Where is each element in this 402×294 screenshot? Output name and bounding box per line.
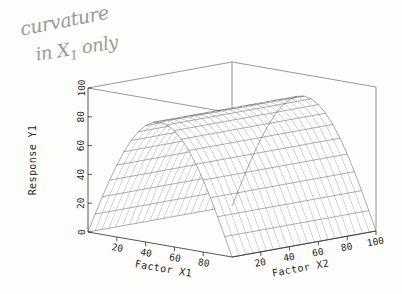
x1-axis-tick-label: 20 <box>111 241 124 254</box>
surface-plot-figure: 020406080100Response Y120406080Factor X1… <box>0 0 402 294</box>
y-axis-tick-label: 40 <box>76 168 87 180</box>
response-surface-mesh <box>88 96 376 257</box>
y-axis-tick-label: 100 <box>76 79 87 96</box>
x1-axis-tick-label: 60 <box>168 251 181 264</box>
x2-axis-title: Factor X2 <box>271 258 330 279</box>
x2-axis-tick-label: 20 <box>254 256 267 269</box>
x2-axis-tick-label: 60 <box>311 245 324 258</box>
x2-axis-tick-label: 100 <box>366 235 385 249</box>
y-axis-tick-label: 80 <box>76 111 87 123</box>
y-axis-title: Response Y1 <box>27 125 38 196</box>
x2-axis-tick-label: 40 <box>282 251 295 264</box>
x1-axis-tick-label: 80 <box>197 256 210 269</box>
surface-plot-canvas: 020406080100Response Y120406080Factor X1… <box>0 0 402 294</box>
y-axis-tick-label: 0 <box>76 229 87 235</box>
y-axis-tick-label: 20 <box>76 197 87 209</box>
x1-axis-title: Factor X1 <box>134 258 193 279</box>
x2-axis-tick-label: 80 <box>340 240 353 253</box>
y-axis-tick-label: 60 <box>76 140 87 152</box>
x1-axis-tick-label: 40 <box>140 246 153 259</box>
